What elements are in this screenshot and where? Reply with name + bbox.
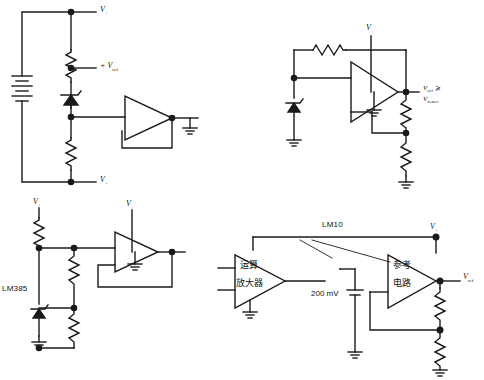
label-v-plus-top-left: V+ [100,6,108,16]
label-v-plus-opamp-bottom-left: V+ [126,200,134,210]
junction-dot [433,234,439,240]
junction-dot [437,327,443,333]
subscript: + [38,203,41,208]
zener-diode-bar [286,99,303,103]
subscript: + [105,11,108,16]
label-v-plus-bottom-right: V+ [430,223,438,233]
wire-battery-top [22,12,71,76]
label-200mv-cell: 200 mV [311,290,339,298]
label-lm385: LM385 [2,285,27,293]
junction-dot [403,89,408,94]
subscript: + [131,205,134,210]
panel-bottom-right [218,234,460,376]
resistor-divider-lower [435,330,445,370]
panel-top-right [286,36,419,188]
junction-dot [437,278,443,284]
label-v-ref-top-left: + Vref [100,62,118,72]
circuit-diagram-sheet: V+ + Vref V− V+ Vref ⩾ Vzener V+ V+ LM38… [0,0,484,380]
junction-dot [71,305,76,310]
label-v-plus-top-right: V+ [366,24,374,34]
leader-line-right [312,240,390,262]
junction-dot [403,130,408,135]
junction-dot [169,249,174,254]
op-amp-symbol [125,96,172,140]
resistor-lower [66,138,76,170]
wire-feedback [122,118,172,148]
zener-diode-body [64,95,78,105]
zener-diode-body [288,103,300,112]
subscript: ref [468,278,474,283]
junction-dot [169,115,174,120]
leader-line-left [300,240,332,258]
label-v-ref-compare-line1: Vref ⩾ [423,85,441,93]
junction-dot [68,179,73,184]
label-v-ref-bottom-right: Vref [463,273,473,283]
resistor-divider-lower [69,306,79,348]
resistor-divider-lower [401,133,411,176]
resistor-feedback [313,45,346,55]
lm385-body [33,309,45,318]
label-block-reference-line1: 参考 [393,261,411,270]
junction-dot [71,245,76,250]
comparison-operator: ⩾ [433,84,441,92]
op-amp-symbol [115,232,158,272]
resistor-divider-upper [401,92,411,133]
junction-dot [36,345,41,350]
junction-dot [68,9,73,14]
subscript: + [371,29,374,34]
panel-bottom-left [31,208,185,351]
label-block-op-amp-line1: 运算 [240,261,258,270]
resistor-divider-upper [69,248,79,306]
subscript: − [105,181,108,186]
junction-dot [291,75,296,80]
circuit-artwork [0,0,484,380]
subscript: ref [112,67,118,72]
panel-top-left [12,9,198,184]
resistor-divider-upper [435,288,445,330]
label-block-op-amp-line2: 放大器 [236,279,263,288]
subscript: + [435,228,438,233]
subscript: zener [427,99,438,104]
junction-dot [36,245,41,250]
junction-dot [68,114,73,119]
wire-divider-feedback [372,112,406,133]
junction-dot [68,65,73,70]
wire-battery-bottom [22,101,71,182]
label-block-reference-line2: 电路 [393,279,411,288]
label-lm10: LM10 [322,221,343,229]
label-v-plus-supply-bottom-left: V+ [33,198,41,208]
label-v-minus-top-left: V− [100,176,108,186]
label-v-ref-compare-line2: Vzener [423,96,438,104]
